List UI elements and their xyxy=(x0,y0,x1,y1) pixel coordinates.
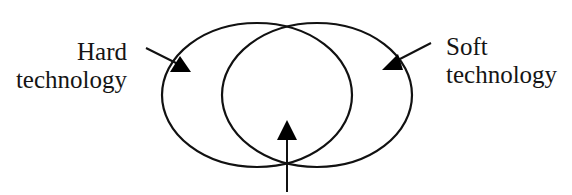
hard-technology-label-line1: Hard xyxy=(16,38,127,66)
soft-technology-label: Soft technology xyxy=(446,33,557,89)
arrowhead-icon xyxy=(382,54,403,70)
venn-diagram xyxy=(0,0,572,195)
hard-technology-ellipse xyxy=(162,23,352,167)
soft-technology-label-line2: technology xyxy=(446,61,557,89)
intersection-pointer-arrow xyxy=(277,120,297,192)
hard-technology-label-line2: technology xyxy=(16,66,127,94)
soft-technology-label-line1: Soft xyxy=(446,33,557,61)
arrowhead-icon xyxy=(277,120,297,140)
arrowhead-icon xyxy=(170,56,191,72)
hard-technology-label: Hard technology xyxy=(16,38,127,94)
soft-technology-ellipse xyxy=(222,23,412,167)
